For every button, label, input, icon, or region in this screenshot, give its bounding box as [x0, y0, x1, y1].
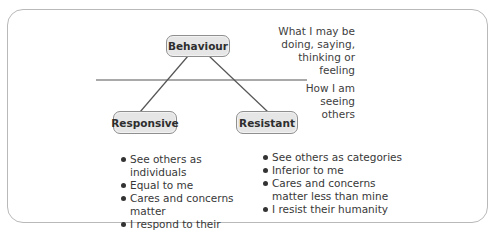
node-behaviour: Behaviour — [166, 35, 230, 57]
annotation-line: seeing — [245, 95, 355, 108]
list-item-text: Equal to me — [130, 179, 193, 191]
connector-left — [140, 56, 188, 112]
bullet-icon — [121, 222, 126, 227]
annotation-below-line: How I am seeing others — [245, 82, 355, 121]
annotation-line: thinking or — [245, 51, 355, 64]
list-item-text: I resist their humanity — [272, 203, 388, 215]
node-behaviour-label: Behaviour — [168, 40, 228, 52]
list-item: Cares and concerns matter less than mine — [263, 177, 413, 203]
list-item: Cares and concerns matter — [121, 192, 261, 218]
bullet-icon — [263, 181, 268, 186]
annotation-above-line: What I may be doing, saying, thinking or… — [245, 25, 355, 77]
bullet-icon — [263, 155, 268, 160]
list-item-text: I respond to their humanity — [130, 218, 221, 231]
list-item: Inferior to me — [263, 164, 413, 177]
list-item: I respond to their humanity — [121, 218, 261, 231]
list-item-text: See others as individuals — [130, 153, 202, 178]
annotation-line: others — [245, 108, 355, 121]
list-item-text: Inferior to me — [272, 164, 344, 176]
list-item-text: See others as categories — [272, 151, 402, 163]
list-item: Equal to me — [121, 179, 261, 192]
responsive-list: See others as individuals Equal to me Ca… — [121, 153, 261, 231]
list-item-text: Cares and concerns matter less than mine — [272, 177, 388, 202]
bullet-icon — [121, 157, 126, 162]
annotation-line: feeling — [245, 64, 355, 77]
list-item: See others as individuals — [121, 153, 261, 179]
bullet-icon — [121, 183, 126, 188]
annotation-line: What I may be — [245, 25, 355, 38]
bullet-icon — [263, 168, 268, 173]
bullet-icon — [121, 196, 126, 201]
list-item: I resist their humanity — [263, 203, 413, 216]
annotation-line: How I am — [245, 82, 355, 95]
list-item-text: Cares and concerns matter — [130, 192, 234, 217]
resistant-list: See others as categories Inferior to me … — [263, 151, 413, 216]
list-item: See others as categories — [263, 151, 413, 164]
bullet-icon — [263, 207, 268, 212]
node-responsive: Responsive — [113, 111, 177, 134]
annotation-line: doing, saying, — [245, 38, 355, 51]
node-responsive-label: Responsive — [111, 117, 178, 129]
